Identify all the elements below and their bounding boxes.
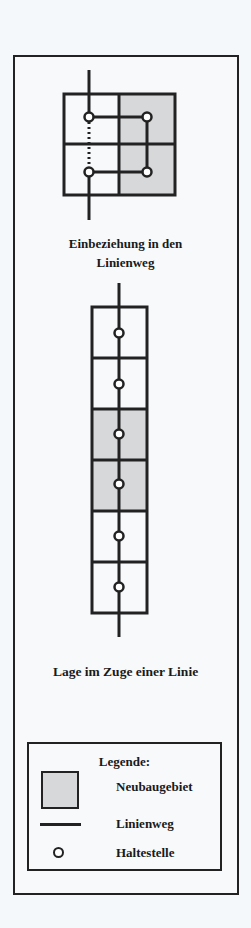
diagram-along-route [92, 283, 147, 637]
route-line-icon [40, 823, 81, 826]
diagram-inclusion-in-route [64, 70, 175, 220]
caption-line-1: Einbeziehung in den [0, 234, 251, 253]
stop-icon [143, 113, 152, 122]
legend-label-stop: Haltestelle [116, 845, 174, 861]
stop-icon [115, 480, 124, 489]
legend-label-new-development: Neubaugebiet [116, 779, 193, 795]
legend-label-route: Linienweg [116, 816, 174, 832]
stop-icon [115, 329, 124, 338]
stop-icon [115, 430, 124, 439]
caption-along-route: Lage im Zuge einer Linie [0, 662, 251, 681]
caption-line-2: Linienweg [0, 253, 251, 272]
legend-title: Legende: [29, 754, 220, 770]
legend-box: Legende: Neubaugebiet Linienweg Halteste… [27, 742, 222, 871]
stop-icon [115, 583, 124, 592]
stop-icon [115, 532, 124, 541]
stop-icon [143, 168, 152, 177]
stop-icon [85, 113, 94, 122]
stop-icon [85, 168, 94, 177]
stop-icon [115, 380, 124, 389]
stop-circle-icon [53, 847, 64, 858]
shaded-area-swatch-icon [41, 771, 79, 809]
caption-inclusion-in-route: Einbeziehung in den Linienweg [0, 234, 251, 272]
